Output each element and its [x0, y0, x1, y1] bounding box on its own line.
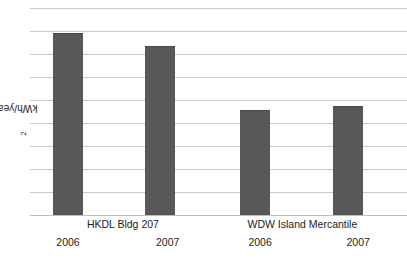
bar [240, 110, 270, 215]
x-axis-labels: HKDL Bldg 207WDW Island Mercantile 20062… [0, 215, 407, 262]
bar [145, 46, 175, 215]
year-label: 2006 [248, 236, 271, 248]
year-label: 2006 [56, 236, 79, 248]
plot-area [30, 0, 407, 215]
bar-chart: kWh/year-m2 HKDL Bldg 207WDW Island Merc… [0, 0, 407, 262]
group-label: WDW Island Mercantile [248, 218, 358, 230]
bar [53, 33, 83, 215]
y-axis-title: kWh/year-m2 [0, 0, 30, 215]
bar [333, 106, 363, 215]
bars-layer [30, 0, 407, 215]
year-label: 2007 [346, 236, 369, 248]
y-axis-title-text: kWh/year-m2 [4, 80, 26, 135]
group-label: HKDL Bldg 207 [87, 218, 159, 230]
year-label: 2007 [156, 236, 179, 248]
y-axis-title-subscript: 2 [19, 131, 28, 135]
